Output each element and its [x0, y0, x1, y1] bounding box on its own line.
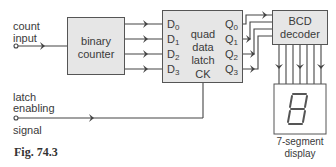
latch-d2: D2: [167, 48, 179, 64]
latch-clock-label: CK: [183, 68, 223, 81]
latch-q3: Q3: [225, 63, 238, 79]
latch-label-3: latch: [183, 54, 223, 67]
count-input-terminal: [14, 44, 18, 48]
latch-d1: D1: [167, 33, 179, 49]
display-label-1: 7-segment: [272, 136, 328, 148]
count-input-label-1: count: [13, 20, 40, 32]
latch-q0: Q0: [225, 18, 238, 34]
binary-counter-block: binary counter: [67, 17, 125, 75]
decoder-label-1: BCD: [273, 15, 327, 28]
count-input-label-2: input: [13, 32, 37, 44]
counter-label-2: counter: [68, 48, 124, 61]
latch-label-2: data: [183, 41, 223, 54]
quad-data-latch-block: D0 D1 D2 D3 Q0 Q1 Q2 Q3 quad data latch …: [162, 10, 243, 83]
latch-d0: D0: [167, 18, 179, 34]
latch-q2: Q2: [225, 48, 238, 64]
latch-q1: Q1: [225, 33, 238, 49]
latch-enable-label-2: enabling: [13, 102, 55, 114]
latch-enable-label-3: signal: [13, 124, 42, 136]
bcd-decoder-block: BCD decoder: [272, 10, 328, 45]
latch-label-1: quad: [183, 28, 223, 41]
figure-caption: Fig. 74.3: [14, 145, 58, 160]
decoder-label-2: decoder: [273, 28, 327, 41]
counter-label-1: binary: [68, 35, 124, 48]
display-label-2: display: [272, 148, 328, 160]
latch-d3: D3: [167, 63, 179, 79]
latch-enable-terminal: [14, 116, 18, 120]
